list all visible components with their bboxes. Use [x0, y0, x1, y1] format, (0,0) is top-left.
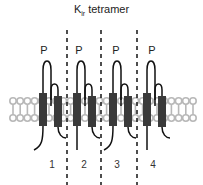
- transmembrane-helix: [143, 93, 151, 126]
- transmembrane-helix: [73, 93, 81, 126]
- kir-tetramer-diagram: [0, 0, 203, 185]
- subunit-3: [104, 61, 136, 150]
- lipid-bilayer: [10, 98, 196, 121]
- subunit-2: [73, 61, 100, 150]
- transmembrane-helix: [54, 96, 62, 127]
- subunit-label-3: 3: [112, 159, 122, 170]
- subunit-label-4: 4: [148, 159, 158, 170]
- transmembrane-helix: [124, 96, 132, 127]
- subunit-label-1: 1: [47, 159, 57, 170]
- pore-label-3: P: [110, 44, 122, 56]
- pore-label-1: P: [38, 44, 50, 56]
- transmembrane-helix: [88, 96, 96, 127]
- transmembrane-helix: [158, 96, 166, 127]
- subunit-1: [34, 61, 66, 150]
- subunits: [34, 61, 170, 150]
- pore-label-4: P: [146, 44, 158, 56]
- transmembrane-helix: [39, 93, 47, 126]
- pore-label-2: P: [73, 44, 85, 56]
- transmembrane-helix: [109, 93, 117, 126]
- subunit-label-2: 2: [79, 159, 89, 170]
